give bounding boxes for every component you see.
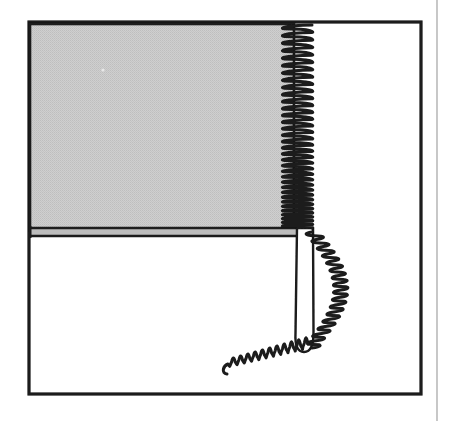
unwound-strip (295, 228, 313, 352)
scan-speck (101, 68, 104, 71)
shaded-panel (30, 24, 294, 230)
tight-coil (282, 25, 312, 228)
figure-root: Coiled strip peeling from edge of shaded… (0, 0, 450, 421)
illustration-canvas (0, 0, 450, 421)
